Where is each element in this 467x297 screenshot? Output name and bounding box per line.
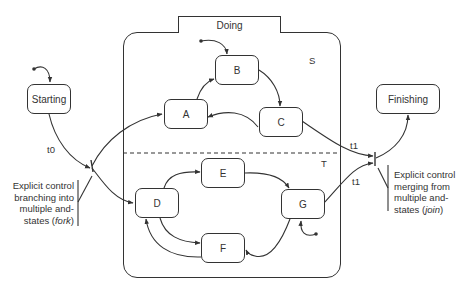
region-t-label: T: [321, 158, 327, 169]
fork-note-leader: [78, 176, 92, 202]
state-b: B: [215, 55, 259, 85]
fork-note-suffix: ): [71, 215, 74, 226]
initial-transition-g: [301, 221, 316, 235]
fork-note-line2: branching into: [2, 192, 74, 204]
statechart-diagram: Doing: [0, 0, 467, 297]
join-annotation: Explicit control merging from multiple a…: [394, 169, 466, 215]
f-to-d: [146, 219, 201, 257]
fork-note-prefix: states (: [24, 215, 55, 226]
transition-t0-label: t0: [47, 144, 55, 155]
state-a-label: A: [183, 109, 190, 120]
transition-t1-lower-label: t1: [352, 176, 360, 187]
g-to-f: [246, 219, 290, 257]
join-note-em: join: [425, 204, 440, 215]
state-e: E: [201, 158, 245, 188]
state-c: C: [259, 107, 303, 137]
join-to-finishing: [376, 115, 408, 158]
initial-dot-starting: [32, 67, 36, 71]
fork-note-em: fork: [55, 215, 71, 226]
initial-transition-b: [201, 40, 227, 54]
state-finishing-label: Finishing: [388, 94, 428, 105]
state-finishing: Finishing: [376, 84, 440, 114]
d-to-f: [160, 218, 200, 243]
fork-note-line4: states (fork): [2, 215, 74, 227]
fork-to-a: [92, 114, 162, 166]
state-starting: Starting: [27, 84, 71, 114]
state-d-label: D: [153, 198, 160, 209]
region-s-label: S: [309, 55, 315, 66]
state-starting-label: Starting: [32, 94, 66, 105]
join-note-leader: [378, 168, 388, 188]
join-note-suffix: ): [440, 204, 443, 215]
join-note-line4: states (join): [394, 204, 466, 216]
c-to-a: [208, 113, 258, 127]
state-g: G: [281, 189, 325, 219]
state-a: A: [164, 99, 208, 129]
initial-dot-g: [314, 232, 318, 236]
initial-dot-b: [199, 39, 203, 43]
state-g-label: G: [299, 199, 307, 210]
e-to-g: [245, 173, 289, 188]
join-note-prefix: states (: [394, 204, 425, 215]
a-to-b: [197, 79, 214, 99]
transition-t0: [49, 114, 90, 168]
state-e-label: E: [220, 168, 227, 179]
fork-note-line1: Explicit control: [2, 180, 74, 192]
g-to-join: [324, 163, 373, 203]
fork-note-line3: multiple and-: [2, 203, 74, 215]
state-c-label: C: [277, 117, 284, 128]
state-d: D: [135, 188, 179, 218]
transition-t1-upper-label: t1: [350, 140, 358, 151]
join-note-line3: multiple and-: [394, 192, 466, 204]
state-b-label: B: [234, 65, 241, 76]
join-note-line2: merging from: [394, 181, 466, 193]
fork-to-d: [92, 168, 133, 203]
state-f-label: F: [220, 243, 226, 254]
state-f: F: [201, 233, 245, 263]
d-to-e: [164, 172, 200, 188]
initial-transition-starting: [34, 67, 50, 82]
b-to-c: [259, 70, 280, 106]
join-note-line1: Explicit control: [394, 169, 466, 181]
c-to-join: [302, 121, 373, 156]
fork-annotation: Explicit control branching into multiple…: [2, 180, 74, 226]
